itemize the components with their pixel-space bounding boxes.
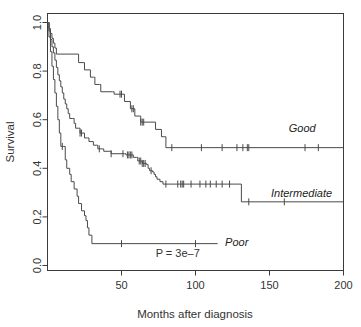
series-label-poor: Poor	[225, 236, 250, 248]
survival-curve-poor	[48, 23, 218, 244]
p-value-annotation: P = 3e–7	[156, 247, 200, 259]
y-tick-label: 0.6	[31, 112, 43, 127]
series-label-intermediate: Intermediate	[271, 187, 332, 199]
x-tick-label: 50	[115, 279, 127, 291]
y-tick-label: 0.0	[31, 258, 43, 273]
y-axis-title: Survival	[4, 122, 16, 163]
survival-plot-canvas: 0.00.20.40.60.81.0 50100150200 GoodInter…	[0, 0, 361, 327]
x-axis-ticks: 50100150200	[48, 271, 353, 291]
y-tick-label: 0.8	[31, 63, 43, 78]
x-tick-label: 200	[334, 279, 352, 291]
series-label-good: Good	[289, 122, 317, 134]
survival-curve-intermediate	[48, 23, 344, 202]
censoring-marks	[62, 91, 318, 247]
y-tick-label: 1.0	[31, 15, 43, 30]
x-tick-label: 100	[186, 279, 204, 291]
y-tick-label: 0.2	[31, 209, 43, 224]
x-axis-title: Months after diagnosis	[137, 308, 253, 320]
y-tick-label: 0.4	[31, 161, 43, 176]
kaplan-meier-survival-chart: 0.00.20.40.60.81.0 50100150200 GoodInter…	[0, 0, 361, 327]
x-tick-label: 150	[260, 279, 278, 291]
y-axis-ticks: 0.00.20.40.60.81.0	[31, 15, 47, 273]
